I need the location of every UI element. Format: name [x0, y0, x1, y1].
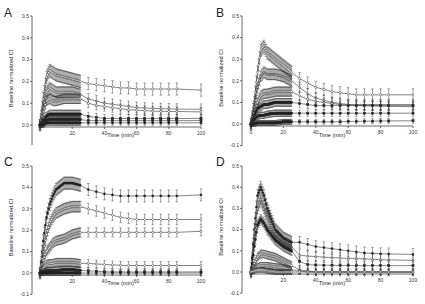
y-tick-label: 0.0	[232, 269, 239, 275]
x-tick-label: 20	[281, 277, 287, 283]
figure-caption	[0, 297, 425, 304]
x-tick-label: 80	[378, 277, 384, 283]
y-tick-label: 0.5	[232, 163, 239, 169]
x-axis-label: Time (min)	[319, 280, 346, 286]
x-tick-label: 60	[345, 277, 351, 283]
y-tick-label: 0.1	[232, 248, 239, 254]
y-tick-label: 0.2	[232, 226, 239, 232]
y-axis-label: Baseline normalized CI	[218, 198, 224, 256]
x-tick-label: 100	[409, 277, 418, 283]
y-axis: -0.10.00.10.20.30.40.5	[230, 163, 242, 296]
y-tick-label: 0.3	[232, 205, 239, 211]
y-tick-label: 0.4	[232, 184, 239, 190]
y-tick-label: -0.1	[230, 290, 239, 296]
chart-d: -0.10.00.10.20.30.40.5Baseline normalize…	[0, 0, 425, 304]
